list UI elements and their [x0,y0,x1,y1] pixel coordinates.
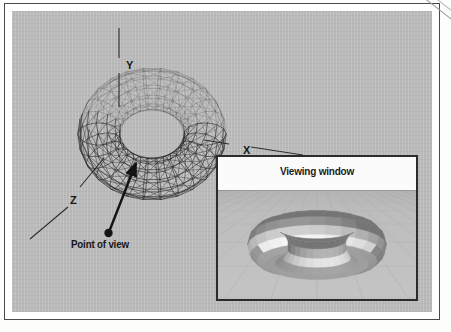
axis-x-line-outer [251,147,303,155]
axis-label-z: Z [70,195,77,206]
illustration-canvas: Y X Z Point of view Viewing window [12,11,432,312]
viewing-window-inset: Viewing window [216,155,418,301]
wireframe-torus [78,68,226,199]
axis-z-line-outer [30,207,68,239]
shaded-torus [247,211,386,280]
inset-scene-vector-layer [218,157,416,299]
point-of-view-dot [104,229,112,237]
point-of-view-label: Point of view [71,239,129,250]
figure-root: Y X Z Point of view Viewing window [0,0,451,332]
axis-label-y: Y [126,60,133,71]
